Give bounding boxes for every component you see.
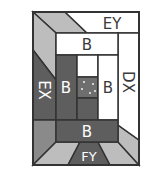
dot <box>81 88 83 90</box>
dot <box>92 83 94 85</box>
label-fy: FY <box>81 149 96 164</box>
label-bottom-b: B <box>82 123 92 141</box>
label-dx: DX <box>119 71 137 93</box>
dot <box>94 90 96 92</box>
dot <box>89 92 91 94</box>
center-white-square <box>77 55 98 77</box>
center-lower-dark <box>77 98 98 120</box>
label-ex: EX <box>35 80 53 100</box>
quilt-diagram: EY B EX DX B B B FY <box>0 0 145 180</box>
label-center-right-b: B <box>103 79 113 97</box>
label-center-left-b: B <box>61 79 71 97</box>
dot <box>83 81 85 83</box>
label-ey: EY <box>103 15 122 33</box>
center-dotted-square <box>77 77 98 98</box>
label-top-b: B <box>82 36 92 54</box>
